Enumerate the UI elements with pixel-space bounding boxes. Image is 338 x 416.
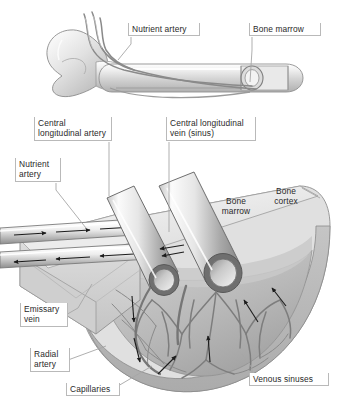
label-radial-artery: Radial artery <box>30 348 70 372</box>
leader-nutrient-artery-upper <box>118 37 131 60</box>
label-central-longitudinal-vein: Central longitudinal vein (sinus) <box>166 117 256 141</box>
leader-nutrient-artery-lower <box>56 183 86 228</box>
label-nutrient-artery-lower: Nutrient artery <box>15 158 61 182</box>
label-emissary-vein: Emissary vein <box>20 303 68 327</box>
label-bone-marrow-upper: Bone marrow <box>249 23 321 36</box>
label-bone-marrow-region: Bone marrow <box>216 196 256 217</box>
label-bone-cortex-region: Bone cortex <box>266 186 306 207</box>
bone-blood-supply-figure: Nutrient artery Bone marrow Central long… <box>0 0 338 416</box>
label-capillaries: Capillaries <box>66 383 120 396</box>
label-venous-sinuses: Venous sinuses <box>249 373 329 386</box>
label-central-longitudinal-artery: Central longitudinal artery <box>34 117 112 141</box>
label-nutrient-artery-upper: Nutrient artery <box>128 23 200 36</box>
leader-radial-artery <box>68 346 106 360</box>
